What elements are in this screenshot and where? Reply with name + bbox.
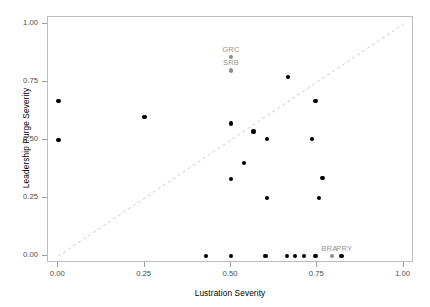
data-point-srb[interactable] bbox=[229, 68, 233, 72]
point-label-grc: GRC bbox=[222, 45, 239, 54]
y-tick-label: 0.00 bbox=[4, 250, 38, 259]
x-tick-label: 1.00 bbox=[383, 269, 423, 278]
data-point[interactable] bbox=[142, 115, 146, 119]
x-tick-label: 0.00 bbox=[37, 269, 77, 278]
data-point[interactable] bbox=[56, 99, 60, 103]
data-point[interactable] bbox=[251, 129, 255, 133]
scatter-plot-figure: Leadership Purge Severity Lustration Sev… bbox=[0, 0, 430, 307]
data-point-pry[interactable] bbox=[339, 254, 343, 258]
y-tick-label: 0.50 bbox=[4, 134, 38, 143]
point-label-pry: PRY bbox=[336, 244, 352, 253]
point-label-bra: BRA bbox=[321, 244, 337, 253]
y-tick-label: 1.00 bbox=[4, 18, 38, 27]
plot-panel: GRCSRBBRAPRY bbox=[47, 16, 413, 262]
x-tick-label: 0.25 bbox=[124, 269, 164, 278]
data-point[interactable] bbox=[229, 177, 233, 181]
x-tick-label: 0.50 bbox=[210, 269, 250, 278]
data-point[interactable] bbox=[320, 176, 324, 180]
data-point[interactable] bbox=[56, 138, 60, 142]
y-tick-label: 0.75 bbox=[4, 76, 38, 85]
data-point[interactable] bbox=[229, 121, 233, 125]
data-point[interactable] bbox=[313, 254, 317, 258]
x-axis-title: Lustration Severity bbox=[47, 288, 413, 298]
x-tick-label: 0.75 bbox=[296, 269, 336, 278]
y-tick-label: 0.25 bbox=[4, 192, 38, 201]
data-point[interactable] bbox=[263, 254, 267, 258]
point-label-srb: SRB bbox=[223, 58, 239, 67]
